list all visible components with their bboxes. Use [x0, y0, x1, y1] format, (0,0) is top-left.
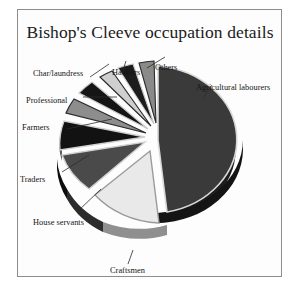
pie-label-char-laundress: Char/laundress — [33, 70, 83, 78]
slice-depth-craftsmen — [103, 222, 167, 239]
leader-line-craftsmen — [128, 250, 133, 264]
slice-depth-traders — [57, 159, 67, 199]
figure-page: Bishop's Cleeve occupation details — [0, 0, 300, 298]
leader-line-house-servants — [77, 189, 101, 212]
pie-label-traders: Traders — [20, 176, 45, 184]
pie-label-craftsmen: Craftsmen — [110, 267, 145, 275]
pie-label-house-servants: House servants — [33, 219, 84, 227]
pie-label-agricultural-labourers: Agricultural labourers — [196, 84, 270, 92]
pie-label-farmers: Farmers — [22, 124, 49, 132]
pie-label-hauliers: Hauliers — [112, 69, 140, 77]
pie-label-others: Others — [155, 64, 177, 72]
pie-label-professional: Professional — [26, 97, 67, 105]
pie-chart — [17, 9, 282, 277]
